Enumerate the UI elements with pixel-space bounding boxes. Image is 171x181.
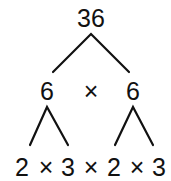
left-factor: 6 bbox=[35, 79, 59, 104]
prime-factor: 3 bbox=[58, 155, 78, 180]
multiply-sign: × bbox=[81, 155, 101, 180]
multiply-sign: × bbox=[36, 155, 56, 180]
prime-factor: 2 bbox=[12, 155, 32, 180]
root-number: 36 bbox=[71, 6, 111, 31]
multiply-sign: × bbox=[127, 155, 147, 180]
prime-factor: 3 bbox=[149, 155, 169, 180]
right-factor: 6 bbox=[121, 79, 145, 104]
multiply-sign: × bbox=[79, 79, 103, 104]
prime-factor: 2 bbox=[104, 155, 124, 180]
